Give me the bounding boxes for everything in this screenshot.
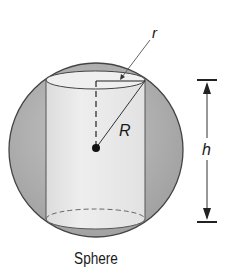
- diagram-caption: Sphere: [14, 250, 177, 268]
- center-point: [92, 144, 100, 152]
- sphere-cylinder-diagram: r R h: [0, 0, 231, 276]
- small-radius-label: r: [152, 24, 158, 41]
- height-label: h: [202, 141, 211, 158]
- sphere-radius-label: R: [119, 122, 131, 139]
